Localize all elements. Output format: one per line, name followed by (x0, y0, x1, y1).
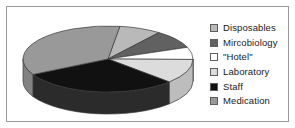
legend-item[interactable]: Disposables (210, 21, 295, 36)
legend-swatch-icon (210, 24, 218, 32)
legend-swatch-icon (210, 39, 218, 47)
legend-item-label: Disposables (223, 23, 276, 33)
pie-chart-figure: DisposablesMircobiology"Hotel"Laboratory… (0, 0, 295, 128)
pie-chart-svg (15, 15, 202, 127)
legend-item-label: Mircobiology (223, 38, 278, 48)
legend-item[interactable]: "Hotel" (210, 50, 295, 65)
legend-item-label: Laboratory (223, 67, 269, 77)
legend-item[interactable]: Medication (210, 94, 295, 109)
legend-swatch-icon (210, 97, 218, 105)
legend-item[interactable]: Mircobiology (210, 36, 295, 51)
legend-swatch-icon (210, 53, 218, 61)
legend-swatch-icon (210, 83, 218, 91)
pie-plot-area (15, 15, 202, 127)
legend-item[interactable]: Laboratory (210, 65, 295, 80)
legend-item-label: Staff (223, 82, 243, 92)
chart-legend: DisposablesMircobiology"Hotel"Laboratory… (210, 21, 295, 121)
legend-item-label: "Hotel" (223, 52, 253, 62)
legend-item[interactable]: Staff (210, 79, 295, 94)
chart-frame: DisposablesMircobiology"Hotel"Laboratory… (6, 6, 289, 122)
legend-item-label: Medication (223, 96, 270, 106)
pie-slices-group (23, 26, 193, 114)
legend-swatch-icon (210, 68, 218, 76)
